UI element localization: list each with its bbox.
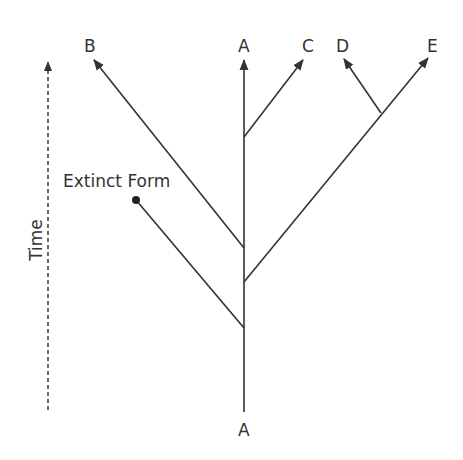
extinct-endpoint-dot	[132, 196, 140, 204]
branch-C	[244, 60, 303, 137]
tip-label-A: A	[238, 38, 250, 55]
tip-label-D: D	[336, 38, 349, 55]
tip-label-B: B	[84, 38, 96, 55]
time-axis-label: Time	[26, 219, 46, 261]
tip-label-C: C	[302, 38, 314, 55]
branch-E	[244, 58, 428, 282]
branch-B	[94, 60, 244, 248]
extinct-form-label: Extinct Form	[63, 173, 170, 190]
branch-extinct	[136, 200, 244, 328]
branch-D	[344, 59, 381, 113]
tip-label-E: E	[427, 38, 438, 55]
tree-diagram	[0, 0, 463, 460]
root-label-A: A	[238, 422, 250, 439]
